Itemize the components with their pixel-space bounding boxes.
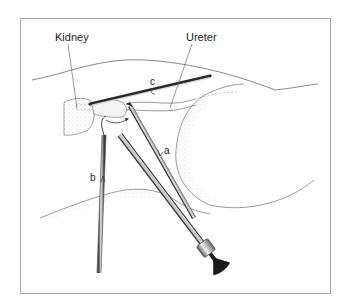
ureter-label: Ureter (186, 31, 217, 43)
instrument-b-label: b (90, 172, 96, 183)
instrument-c-label: c (150, 76, 155, 87)
laparoscopic-nephrectomy-diagram: Kidney Ureter c a b (0, 0, 346, 304)
kidney-label: Kidney (55, 31, 89, 43)
instrument-a-label: a (164, 145, 170, 156)
